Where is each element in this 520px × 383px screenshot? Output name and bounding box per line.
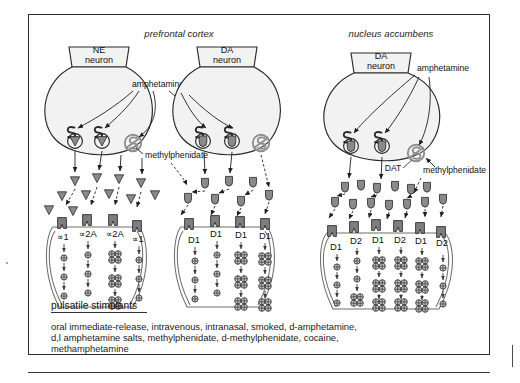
amphetamine-label-nac: amphetamine [417,63,469,73]
da-nac-diffusion-6 [369,210,371,218]
receptor-label-da-pfc-2: D1 [210,228,222,239]
ne-diffusion-3 [115,187,119,205]
da-nac-diffusion-2 [371,195,377,197]
receptor-label-da-pfc-3: D1 [235,229,247,240]
da-neuron-nac-label-line1: DA [375,51,388,61]
caption-line-1: oral immediate-release, intravenous, int… [51,321,357,332]
ne-released-particles [44,174,159,216]
receptor-label-da-nac-4: D2 [394,234,406,245]
ne-release-arrow-3 [120,155,121,171]
receptor-label-da-nac-3: D1 [372,234,384,245]
da-neuron-nac-label-line2: neuron [367,61,395,71]
ne-diffusion-2 [91,187,97,205]
da-nac-receptor-3 [372,220,381,231]
figure-frame: prefrontal cortex nucleus accumbens NE n… [28,14,490,355]
amphetamine-label-pfc: amphetamine [132,79,184,89]
dat-label: DAT [385,163,402,173]
da-pfc-diffusion-5 [181,205,188,215]
dat-pointer [403,160,412,168]
methylphenidate-label-nac: methylphenidate [423,165,486,175]
da-neuron-pfc-label-line1: DA [221,45,234,55]
ne-neuron-label-line1: NE [93,45,106,55]
da-nac-diffusion-4 [329,209,335,218]
methylphenidate-action-line-pfc [171,163,187,185]
da-pfc-receptor-2 [211,216,220,227]
da-nac-diffusion-1 [337,194,345,196]
da-pfc-diffusion-4 [261,155,269,187]
caption-line-2: d,l amphetamine salts, methylphenidate, … [51,332,339,343]
caption-line-3: methamphetamine [51,343,129,354]
receptor-label-da-nac-5: D1 [415,235,427,246]
da-nac-receptor-2 [350,222,359,233]
receptor-label-da-pfc-1: D1 [188,234,200,245]
ne-diffusion-4 [137,192,141,207]
receptor-label-da-nac-1: D1 [330,241,342,252]
da-pfc-receptor-3 [236,217,245,228]
ne-receptor-2 [83,215,92,226]
da-nac-diffusion-10 [441,206,443,217]
da-pfc-diffusion-8 [265,202,269,214]
receptor-label-da-pfc-4: D1 [259,230,271,241]
ne-receptor-3 [109,215,118,226]
da-nac-receptor-5 [416,223,425,234]
receptor-label-ne-4: ∝1 [132,233,143,244]
da-pfc-diffusion-2 [219,189,229,193]
receptor-label-da-nac-6: D2 [436,237,448,248]
da-nac-diffusion-7 [387,212,389,219]
bottom-horizontal-rule [28,372,490,373]
ne-neuron-label-line2: neuron [85,55,113,65]
da-pfc-diffusion-6 [211,206,215,215]
da-pfc-diffusion-1 [192,191,205,192]
panel-title-prefrontal-cortex: prefrontal cortex [143,28,215,39]
da-neuron-pfc-label-line2: neuron [213,55,241,65]
methylphenidate-label-pfc: methylphenidate [145,150,208,160]
da-nac-receptor-4 [394,221,403,232]
da-pfc-diffusion-3 [245,190,253,195]
receptor-label-ne-2: ∝2A [79,228,97,239]
da-nac-release-arrow-1 [349,157,351,178]
receptor-label-ne-1: ∝1 [57,231,68,242]
da-pfc-diffusion-7 [237,208,241,216]
diagram-canvas: prefrontal cortex nucleus accumbens NE n… [29,15,490,355]
right-margin-tick [512,345,513,367]
panel-title-nucleus-accumbens: nucleus accumbens [349,28,434,39]
left-margin-dot [6,262,8,264]
da-nac-diffusion-3 [407,196,411,198]
receptor-label-ne-3: ∝2A [106,228,124,239]
ne-diffusion-1 [66,189,75,205]
da-neuron-pfc-group: DA neuron [173,45,280,155]
ne-neuron-pfc-group: NE neuron [45,45,152,155]
da-nac-released-particles [332,180,447,210]
da-pfc-released-particles [185,176,273,206]
da-nac-diffusion-8 [405,211,407,218]
receptor-label-da-nac-2: D2 [350,235,362,246]
pulsatile-stimulants-heading: pulsatile stimulants [51,300,137,311]
da-nac-diffusion-5 [349,211,353,219]
methylphenidate-action-line-nac [414,178,421,193]
